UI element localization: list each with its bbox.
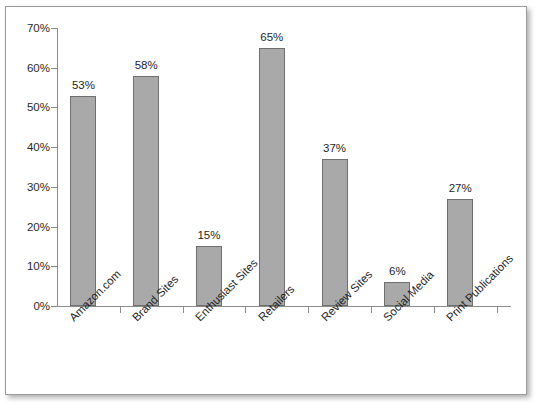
- y-axis-tick-label: 60%: [6, 62, 50, 74]
- y-axis-tick: [51, 68, 57, 69]
- y-axis-tick-label: 20%: [6, 221, 50, 233]
- bar-value-label: 65%: [260, 31, 283, 43]
- y-axis-tick-label: 70%: [6, 22, 50, 34]
- y-axis-line: [57, 28, 58, 307]
- y-axis-tick: [51, 147, 57, 148]
- bar-value-label: 6%: [389, 265, 406, 277]
- x-axis-tick: [120, 307, 121, 313]
- x-axis-line: [57, 306, 511, 307]
- x-axis-tick: [183, 307, 184, 313]
- bar-value-label: 15%: [197, 229, 220, 241]
- x-axis-tick: [245, 307, 246, 313]
- bar: [259, 48, 285, 306]
- bar-value-label: 58%: [135, 59, 158, 71]
- y-axis-tick: [51, 187, 57, 188]
- bar: [70, 96, 96, 306]
- bar-value-label: 27%: [449, 182, 472, 194]
- y-axis-tick-label: 30%: [6, 181, 50, 193]
- bar: [322, 159, 348, 306]
- bar: [133, 76, 159, 306]
- plot-area: 0%10%20%30%40%50%60%70% 53%58%15%65%37%6…: [6, 7, 526, 394]
- x-axis-tick: [308, 307, 309, 313]
- y-axis-tick: [51, 28, 57, 29]
- y-axis-tick: [51, 107, 57, 108]
- y-axis-tick-label: 50%: [6, 101, 50, 113]
- x-axis-tick: [497, 307, 498, 313]
- bar-value-label: 37%: [323, 142, 346, 154]
- y-axis-tick-label: 40%: [6, 141, 50, 153]
- y-axis-tick: [51, 266, 57, 267]
- chart-figure: 0%10%20%30%40%50%60%70% 53%58%15%65%37%6…: [5, 6, 527, 395]
- bar-value-label: 53%: [72, 79, 95, 91]
- y-axis-tick: [51, 227, 57, 228]
- y-axis-tick-label: 10%: [6, 260, 50, 272]
- y-axis-tick-label: 0%: [6, 300, 50, 312]
- x-axis-tick: [434, 307, 435, 313]
- x-axis-tick: [371, 307, 372, 313]
- y-axis-tick: [51, 306, 57, 307]
